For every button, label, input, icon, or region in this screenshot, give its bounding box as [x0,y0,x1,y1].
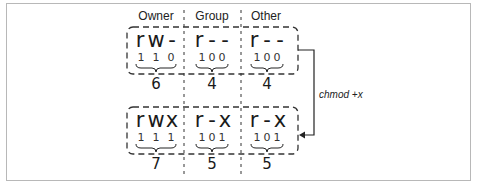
permission-symbol: - [168,28,176,52]
column-header-owner: Owner [138,9,173,23]
permission-bit: 1 [254,131,261,144]
permission-symbol: - [263,28,271,52]
permission-symbol: r [195,28,204,52]
permission-symbol: r [136,108,145,132]
permission-bit: 0 [168,51,175,64]
permission-symbol: w [147,28,164,52]
octal-digit: 5 [262,155,272,173]
permission-bit: 1 [153,51,160,64]
octal-digit: 4 [262,75,272,93]
column-header-other: Other [251,9,281,23]
octal-digit: 5 [207,155,217,173]
octal-digit: 6 [151,75,161,93]
permission-bit: 1 [199,51,206,64]
permission-bit: 1 [254,51,261,64]
permission-bit: 1 [153,131,160,144]
permission-bit: 1 [199,131,206,144]
octal-digit: 7 [151,155,161,173]
permission-symbol: - [208,28,216,52]
permission-bit: 1 [219,131,226,144]
permission-bit: 0 [209,131,216,144]
permission-symbol: - [263,108,271,132]
permission-bit: 1 [168,131,175,144]
permission-symbol: x [166,108,178,132]
permission-bit: 1 [274,131,281,144]
permission-bit: 0 [209,51,216,64]
permission-symbol: - [276,28,284,52]
column-header-group: Group [195,9,229,23]
permission-bit: 0 [264,51,271,64]
permission-symbol: x [274,108,286,132]
permission-bit: 0 [219,51,226,64]
permission-symbol: r [136,28,145,52]
octal-digit: 4 [207,75,217,93]
permission-symbol: - [208,108,216,132]
permission-symbol: - [221,28,229,52]
permission-bit: 1 [138,131,145,144]
permission-symbol: r [250,28,259,52]
permission-symbol: r [250,108,259,132]
permission-symbol: x [219,108,231,132]
permission-bit: 0 [264,131,271,144]
permissions-diagram: Owner Group Other rw-1106r--1004r--1004r… [0,0,477,186]
permission-bit: 0 [274,51,281,64]
permission-bit: 1 [138,51,145,64]
permission-symbol: r [195,108,204,132]
permission-symbol: w [147,108,164,132]
chmod-label: chmod +x [319,89,364,100]
